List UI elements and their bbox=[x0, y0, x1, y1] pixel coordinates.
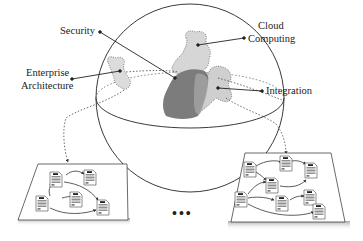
document-icon bbox=[280, 156, 292, 171]
left-process-platform bbox=[18, 164, 130, 226]
label-cloud-line1: Cloud bbox=[258, 20, 284, 31]
document-icon bbox=[36, 196, 48, 211]
label-security: Security bbox=[60, 25, 96, 36]
label-enterprise-line1: Enterprise bbox=[26, 67, 69, 78]
label-enterprise-line2: Architecture bbox=[21, 80, 74, 91]
diagram-canvas: Security Cloud Computing Enterprise Arch… bbox=[0, 0, 363, 241]
label-integration: Integration bbox=[266, 85, 313, 96]
document-icon bbox=[97, 200, 109, 215]
document-icon bbox=[84, 170, 96, 185]
document-icon bbox=[235, 192, 247, 207]
ellipsis-more-platforms: ••• bbox=[172, 206, 193, 221]
document-icon bbox=[305, 163, 317, 178]
label-cloud-line2: Computing bbox=[248, 33, 296, 44]
document-icon bbox=[313, 204, 325, 219]
document-icon bbox=[50, 172, 62, 187]
document-icon bbox=[244, 162, 256, 177]
document-icon bbox=[70, 192, 82, 207]
right-process-platform bbox=[228, 153, 350, 230]
document-icon bbox=[276, 196, 288, 211]
document-icon bbox=[266, 178, 278, 193]
document-icon bbox=[304, 190, 316, 205]
